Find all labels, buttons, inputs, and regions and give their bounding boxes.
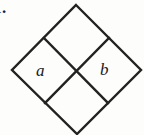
subdivided-diamond-diagram	[0, 0, 144, 135]
cell-label-b: b	[100, 61, 109, 78]
cell-label-a: a	[36, 62, 45, 79]
figure-container: 1. a b	[0, 0, 144, 135]
